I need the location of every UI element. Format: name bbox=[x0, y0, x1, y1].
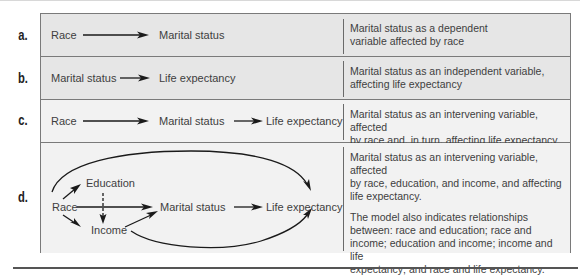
arrow-icon bbox=[41, 14, 161, 57]
model-table: Race Marital status Marital status as a … bbox=[40, 13, 571, 253]
row-c: Race Marital status Life expectancy Mari… bbox=[41, 100, 570, 143]
description-a: Marital status as a dependent variable a… bbox=[350, 22, 566, 48]
row-label-b: b. bbox=[16, 70, 30, 86]
row-label-a: a. bbox=[16, 27, 30, 43]
node-life-expectancy: Life expectancy bbox=[266, 115, 342, 127]
row-a: Race Marital status Marital status as a … bbox=[41, 14, 570, 57]
node-race: Race bbox=[52, 201, 78, 213]
row-d: Race Education Income Marital status Lif… bbox=[41, 143, 570, 253]
description-d: Marital status as an intervening variabl… bbox=[350, 151, 566, 276]
row-b: Marital status Life expectancy Marital s… bbox=[41, 57, 570, 100]
description-c: Marital status as an intervening variabl… bbox=[350, 108, 566, 147]
column-divider bbox=[343, 19, 344, 54]
description-b: Marital status as an independent variabl… bbox=[350, 65, 566, 91]
row-label-d: d. bbox=[16, 189, 30, 205]
node-marital-status: Marital status bbox=[159, 115, 224, 127]
column-divider bbox=[343, 104, 344, 140]
bottom-rule bbox=[13, 267, 578, 269]
column-divider bbox=[343, 147, 344, 251]
node-education: Education bbox=[86, 177, 135, 189]
top-rule bbox=[0, 0, 580, 1]
node-life-expectancy: Life expectancy bbox=[266, 201, 342, 213]
node-marital-status: Marital status bbox=[160, 201, 225, 213]
path-diagram bbox=[41, 143, 341, 253]
node-income: Income bbox=[91, 224, 127, 236]
row-label-c: c. bbox=[16, 112, 30, 128]
arrow-icon bbox=[41, 57, 161, 100]
node-life-expectancy: Life expectancy bbox=[159, 72, 235, 84]
node-marital-status: Marital status bbox=[159, 29, 224, 41]
column-divider bbox=[343, 61, 344, 97]
